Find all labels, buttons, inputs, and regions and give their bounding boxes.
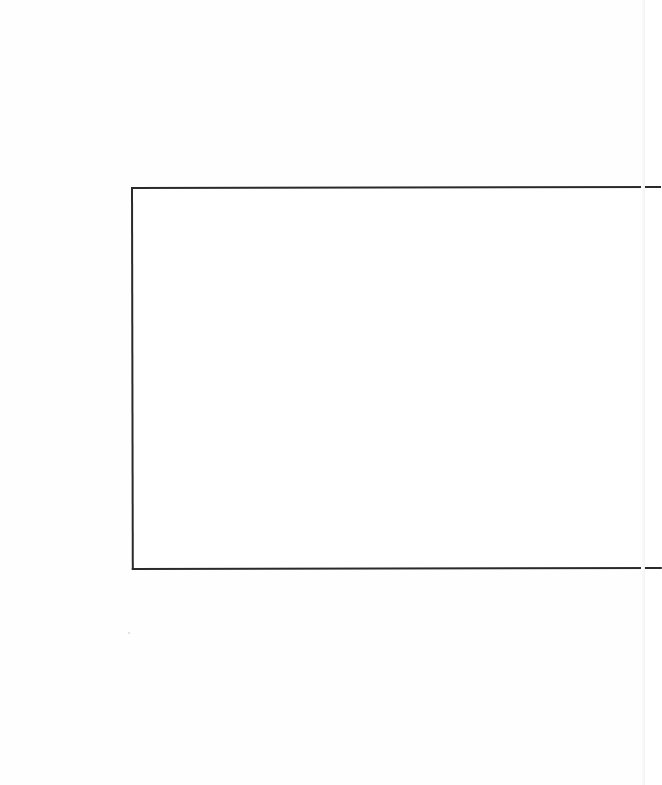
page-edge-shadow [641,0,645,785]
scan-speck [128,632,130,634]
empty-bordered-box [131,186,662,570]
